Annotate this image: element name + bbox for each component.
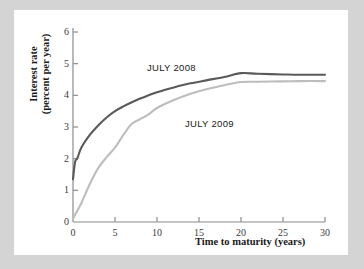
x-tick-label-10: 10	[149, 227, 165, 238]
series-line-july-2009	[73, 81, 325, 219]
y-axis-title-line1: Interest rate	[28, 46, 39, 102]
y-tick-label-0: 0	[53, 216, 69, 227]
series-label-july-2008: JULY 2008	[147, 62, 196, 73]
x-tick-label-25: 25	[275, 227, 291, 238]
y-tick-label-4: 4	[53, 89, 69, 100]
x-tick-label-30: 30	[317, 227, 333, 238]
figure-panel: Interest rate(percent per year) Time to …	[14, 10, 348, 255]
data-series	[73, 73, 325, 219]
x-tick-label-15: 15	[191, 227, 207, 238]
y-tick-label-1: 1	[53, 184, 69, 195]
y-axis-title-container: Interest rate(percent per year)	[28, 14, 52, 134]
x-tick-label-20: 20	[233, 227, 249, 238]
y-tick-label-6: 6	[53, 26, 69, 37]
y-tick-label-5: 5	[53, 58, 69, 69]
x-tick-label-5: 5	[107, 227, 123, 238]
y-axis-title: Interest rate(percent per year)	[28, 14, 52, 134]
y-tick-label-3: 3	[53, 121, 69, 132]
x-tick-label-0: 0	[65, 227, 81, 238]
interest-rate-yield-curve-chart: Interest rate(percent per year) Time to …	[14, 10, 348, 255]
y-axis-title-line2: (percent per year)	[40, 34, 51, 115]
series-label-july-2009: JULY 2009	[185, 118, 234, 129]
y-tick-label-2: 2	[53, 153, 69, 164]
